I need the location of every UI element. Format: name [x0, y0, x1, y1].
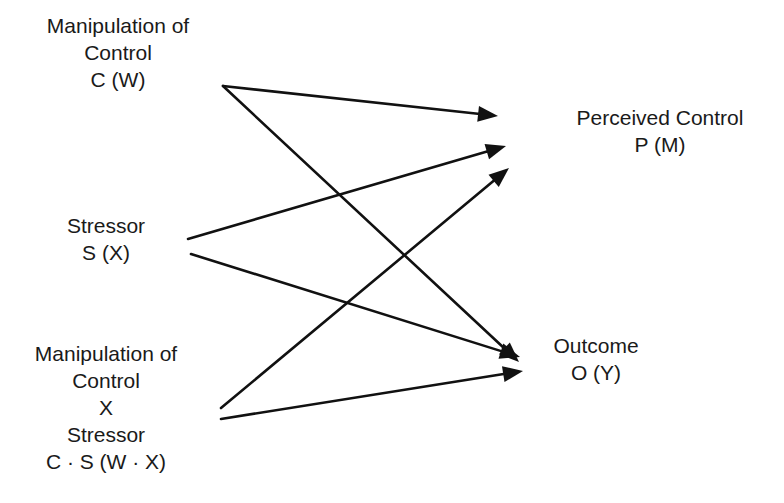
node-label-line: Stressor: [35, 421, 177, 448]
edge-cs-to-o: [221, 374, 505, 419]
edge-s-to-p: [188, 151, 489, 239]
node-label-line: C · S (W · X): [35, 448, 177, 475]
edge-c-to-o: [223, 86, 506, 350]
node-label-line: X: [35, 394, 177, 421]
node-manipulation-of-control: Manipulation of Control C (W): [47, 12, 189, 93]
arrowhead-icon: [477, 106, 498, 122]
node-label-line: Control: [35, 367, 177, 394]
node-perceived-control: Perceived Control P (M): [577, 104, 744, 158]
node-label-line: Outcome: [553, 332, 638, 359]
node-label-line: Control: [47, 39, 189, 66]
arrowhead-icon: [502, 366, 523, 382]
arrowhead-icon: [485, 144, 506, 159]
node-label-line: Perceived Control: [577, 104, 744, 131]
node-outcome: Outcome O (Y): [553, 332, 638, 386]
node-interaction-term: Manipulation of Control X Stressor C · S…: [35, 340, 177, 475]
node-label-line: O (Y): [553, 359, 638, 386]
node-label-line: Manipulation of: [47, 12, 189, 39]
node-label-line: P (M): [577, 131, 744, 158]
node-label-line: S (X): [67, 239, 145, 266]
node-label-line: C (W): [47, 66, 189, 93]
edge-group: [188, 86, 523, 419]
node-label-line: Stressor: [67, 212, 145, 239]
node-stressor: Stressor S (X): [67, 212, 145, 266]
node-label-line: Manipulation of: [35, 340, 177, 367]
edge-c-to-p: [223, 86, 480, 114]
edge-cs-to-p: [221, 180, 495, 408]
